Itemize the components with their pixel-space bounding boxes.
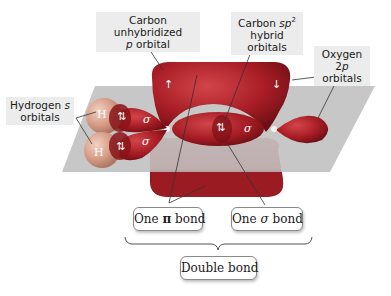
- electron-pair-co-sigma: ⇅: [216, 121, 225, 134]
- sigma-symbol-ch-upper: σ: [143, 113, 151, 126]
- electron-down-pi: ↓: [272, 78, 281, 91]
- sigma-symbol-co: σ: [244, 122, 252, 135]
- label-hydrogen-s: Hydrogen s orbitals: [6, 97, 74, 125]
- label-line: hybrid orbitals: [235, 29, 299, 53]
- label-text: orbital: [133, 38, 170, 50]
- label-italic: p: [126, 38, 133, 50]
- label-carbon-unhybridized-p: Carbon unhybridized p orbital: [96, 12, 200, 52]
- sigma-bond-label: One σ bond: [231, 207, 303, 231]
- label-superscript: 2: [291, 16, 295, 24]
- bond-text: bond: [269, 212, 303, 226]
- electron-pair-ch-lower: ⇅: [116, 140, 125, 153]
- label-line: Hydrogen s: [10, 99, 70, 111]
- label-italic: s: [64, 99, 69, 111]
- label-text: Hydrogen: [10, 99, 64, 111]
- oxygen-nucleus: [271, 126, 277, 132]
- formaldehyde-orbital-diagram: H H ⇅ ⇅ σ σ ↑ ↓ ⇅ σ Carbon unhybridized …: [0, 0, 391, 296]
- label-carbon-sp2-hybrid: Carbon sp2 hybrid orbitals: [231, 12, 303, 55]
- label-line: orbitals: [318, 72, 366, 84]
- electron-up-pi: ↑: [164, 78, 173, 91]
- sigma-symbol: σ: [260, 212, 268, 226]
- pi-symbol: π: [162, 212, 171, 226]
- label-italic: p: [342, 60, 349, 72]
- bond-text: One: [134, 212, 162, 226]
- double-bond-label: Double bond: [180, 256, 257, 280]
- hydrogen-symbol-upper: H: [97, 108, 107, 121]
- label-line: p orbital: [100, 38, 196, 50]
- sigma-symbol-ch-lower: σ: [142, 135, 150, 148]
- bond-text: bond: [171, 212, 205, 226]
- label-line: Oxygen 2p: [318, 48, 366, 72]
- label-text: Carbon: [238, 17, 279, 29]
- label-oxygen-2p: Oxygen 2p orbitals: [314, 46, 370, 86]
- electron-pair-ch-upper: ⇅: [117, 110, 126, 123]
- label-line: Carbon unhybridized: [100, 14, 196, 38]
- label-line: Carbon sp2: [235, 14, 299, 29]
- hydrogen-symbol-lower: H: [94, 146, 104, 159]
- pi-bond-label: One π bond: [133, 207, 203, 231]
- bond-text: One: [232, 212, 260, 226]
- label-line: orbitals: [10, 111, 70, 123]
- double-bond-brace: [125, 237, 312, 250]
- label-italic: sp: [279, 17, 291, 29]
